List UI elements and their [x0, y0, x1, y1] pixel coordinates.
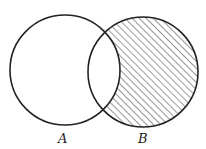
shaded-region-b-minus-a — [0, 0, 206, 149]
label-b: B — [137, 131, 148, 146]
venn-diagram: A B — [0, 0, 206, 149]
label-a: A — [57, 131, 67, 146]
